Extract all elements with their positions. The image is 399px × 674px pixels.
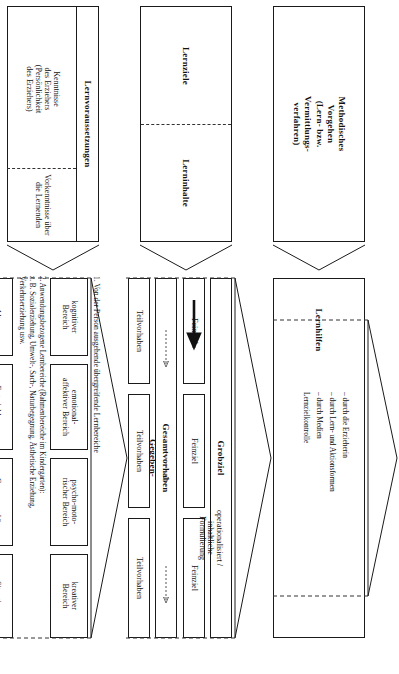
diagram-canvas: Lernvoraussetzungen Kenntnisse des Erzie… (0, 0, 399, 674)
diagram-rotated-frame: Lernvoraussetzungen Kenntnisse des Erzie… (0, 0, 399, 674)
bracket-methodik (0, 0, 399, 674)
